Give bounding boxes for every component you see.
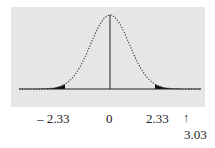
plot-background	[11, 7, 205, 107]
tick-label-zero: 0	[106, 112, 113, 126]
up-arrow-icon: ↑	[183, 111, 189, 125]
tick-label-pos-critical: 2.33	[146, 112, 169, 126]
tick-label-neg-critical: – 2.33	[37, 112, 70, 126]
test-statistic-label: 3.03	[184, 128, 207, 142]
